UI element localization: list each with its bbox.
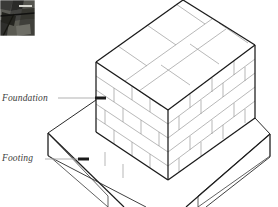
label-footing: Footing (1, 153, 33, 163)
photo-thumbnail-svg (0, 0, 35, 36)
foundation-footing-figure: Foundation Footing (0, 0, 278, 207)
label-foundation: Foundation (1, 93, 48, 103)
footing-top-edge-right (255, 118, 270, 134)
construction-photo-thumbnail (0, 0, 35, 36)
photo-light-form (16, 24, 31, 36)
photo-shape-3 (23, 0, 35, 9)
photo-highlight-bar (19, 5, 32, 7)
isometric-drawing-svg: Foundation Footing (0, 0, 278, 207)
